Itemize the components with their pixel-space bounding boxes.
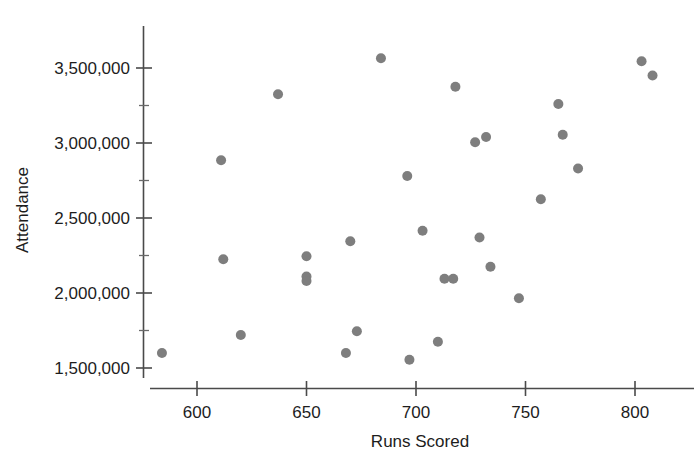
data-point: [558, 130, 568, 140]
y-tick-label-group: 1,500,0002,000,0002,500,0003,000,0003,50…: [54, 59, 130, 378]
y-tick-label: 3,000,000: [54, 134, 130, 153]
x-tick-label: 650: [292, 403, 320, 422]
x-tick-label: 750: [511, 403, 539, 422]
data-point: [341, 348, 351, 358]
data-point: [418, 226, 428, 236]
data-point-group: [157, 53, 658, 365]
data-point: [345, 236, 355, 246]
scatter-plot-figure: 1,500,0002,000,0002,500,0003,000,0003,50…: [0, 0, 699, 458]
x-tick-label: 700: [402, 403, 430, 422]
data-point: [450, 82, 460, 92]
data-point: [481, 132, 491, 142]
data-point: [475, 233, 485, 243]
data-point: [402, 171, 412, 181]
data-point: [553, 99, 563, 109]
x-tick-label: 800: [621, 403, 649, 422]
data-point: [536, 194, 546, 204]
data-point: [404, 355, 414, 365]
data-point: [637, 56, 647, 66]
data-point: [485, 262, 495, 272]
y-tick-label: 3,500,000: [54, 59, 130, 78]
data-point: [216, 155, 226, 165]
data-point: [439, 274, 449, 284]
y-axis-title: Attendance: [13, 167, 32, 253]
plot-canvas: 1,500,0002,000,0002,500,0003,000,0003,50…: [0, 0, 699, 458]
data-point: [573, 164, 583, 174]
data-point: [302, 276, 312, 286]
data-point: [302, 251, 312, 261]
data-point: [470, 137, 480, 147]
data-point: [273, 89, 283, 99]
y-tick-label: 1,500,000: [54, 359, 130, 378]
data-point: [648, 71, 658, 81]
data-point: [157, 348, 167, 358]
x-tick-label: 600: [183, 403, 211, 422]
x-axis-title: Runs Scored: [371, 432, 469, 451]
data-point: [218, 254, 228, 264]
data-point: [352, 326, 362, 336]
y-tick-label: 2,000,000: [54, 284, 130, 303]
data-point: [236, 330, 246, 340]
y-tick-label: 2,500,000: [54, 209, 130, 228]
data-point: [376, 53, 386, 63]
data-point: [448, 274, 458, 284]
data-point: [514, 293, 524, 303]
data-point: [433, 337, 443, 347]
x-tick-label-group: 600650700750800: [183, 403, 649, 422]
